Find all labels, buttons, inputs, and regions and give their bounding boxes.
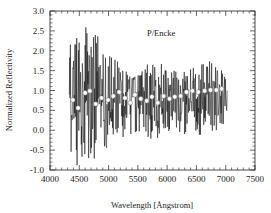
y-tick-label: 1.5 bbox=[33, 66, 45, 76]
data-point bbox=[83, 91, 88, 96]
y-axis-title: Normalized Reflectivity bbox=[4, 48, 14, 131]
data-point bbox=[144, 99, 149, 104]
data-point bbox=[123, 96, 128, 101]
data-point bbox=[71, 98, 76, 103]
data-point bbox=[106, 98, 111, 103]
y-tick-label: 2.5 bbox=[33, 26, 45, 36]
x-tick-label: 4000 bbox=[41, 174, 60, 184]
data-point bbox=[117, 90, 122, 95]
y-tick-label: -0.5 bbox=[30, 145, 45, 155]
data-point bbox=[208, 88, 213, 93]
x-tick-label: 7500 bbox=[246, 174, 265, 184]
data-point bbox=[172, 95, 177, 100]
y-tick-label: -1.0 bbox=[30, 165, 45, 175]
x-tick-labels: 40004500500055006000650070007500 bbox=[41, 174, 265, 184]
y-tick-labels: -1.0-0.50.00.51.01.52.02.53.0 bbox=[30, 6, 45, 175]
x-tick-label: 7000 bbox=[217, 174, 236, 184]
data-point bbox=[88, 89, 93, 94]
data-point bbox=[111, 94, 116, 99]
data-point bbox=[99, 96, 104, 101]
data-point bbox=[196, 90, 201, 95]
x-axis-title: Wavelength [Ångstrom] bbox=[111, 200, 193, 210]
y-tick-label: 0.0 bbox=[33, 125, 45, 135]
data-point bbox=[184, 90, 189, 95]
x-tick-label: 4500 bbox=[70, 174, 89, 184]
y-tick-label: 2.0 bbox=[33, 46, 45, 56]
spectrum-series bbox=[69, 27, 227, 165]
data-point bbox=[161, 94, 166, 99]
data-point bbox=[219, 87, 224, 92]
x-tick-label: 6500 bbox=[187, 174, 206, 184]
reflectivity-chart: 40004500500055006000650070007500 -1.0-0.… bbox=[0, 0, 271, 213]
data-point bbox=[155, 101, 160, 106]
data-point bbox=[76, 106, 81, 111]
data-point bbox=[214, 88, 219, 93]
plot-title: P/Encke bbox=[147, 28, 176, 38]
y-tick-label: 1.0 bbox=[33, 86, 45, 96]
data-point bbox=[93, 102, 98, 107]
data-point bbox=[167, 97, 172, 102]
data-point bbox=[128, 101, 133, 106]
data-point bbox=[133, 93, 138, 98]
y-tick-label: 3.0 bbox=[33, 6, 45, 16]
x-tick-label: 5500 bbox=[129, 174, 148, 184]
data-point bbox=[150, 95, 155, 100]
data-point bbox=[190, 89, 195, 94]
data-point bbox=[178, 94, 183, 99]
x-tick-label: 6000 bbox=[158, 174, 177, 184]
x-tick-label: 5000 bbox=[100, 174, 119, 184]
y-tick-label: 0.5 bbox=[33, 105, 45, 115]
data-point bbox=[202, 89, 207, 94]
data-point bbox=[138, 97, 143, 102]
